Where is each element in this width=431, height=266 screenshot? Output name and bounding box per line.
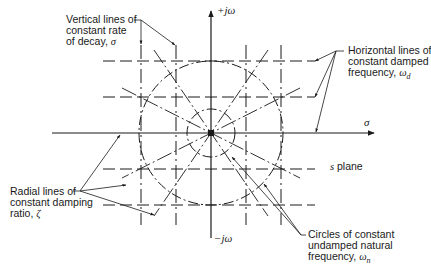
s-symbol: s bbox=[330, 161, 334, 172]
negative-j-omega-label: −jω bbox=[214, 232, 232, 244]
positive-j-omega-label: +jω bbox=[217, 4, 235, 16]
omega-n-symbol: ωn bbox=[359, 251, 370, 262]
vertical-lines-text-3: of decay, σ bbox=[66, 36, 137, 47]
zeta-symbol: ζ bbox=[36, 208, 40, 219]
radial-lines-text-3: ratio, ζ bbox=[10, 208, 93, 219]
horizontal-lines-leaders bbox=[315, 51, 344, 132]
sigma-symbol: σ bbox=[111, 36, 116, 47]
s-plane-label: s plane bbox=[330, 161, 363, 172]
sigma-axis-label: σ bbox=[364, 116, 369, 128]
omega-d-symbol: ωd bbox=[399, 67, 410, 78]
vertical-lines-leaders bbox=[134, 20, 175, 45]
circles-annotation: Circles of constant undamped natural fre… bbox=[308, 229, 394, 266]
radial-lines-annotation: Radial lines of constant damping ratio, … bbox=[10, 186, 93, 219]
vertical-lines-annotation: Vertical lines of constant rate of decay… bbox=[66, 14, 137, 47]
horizontal-lines-annotation: Horizontal lines of constant damped freq… bbox=[348, 45, 431, 82]
horizontal-lines-text-3: frequency, ωd bbox=[348, 67, 431, 82]
circles-text-3: frequency, ωn bbox=[308, 251, 394, 266]
origin-marker bbox=[208, 130, 214, 136]
